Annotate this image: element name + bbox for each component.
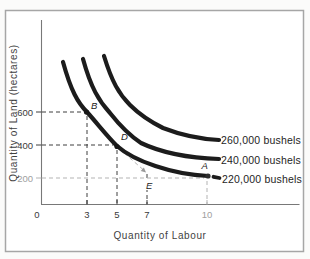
y-tick-400: 400 (17, 140, 33, 151)
curve-220k-end-mark (214, 177, 220, 178)
x-axis-title: Quantity of Labour (113, 230, 206, 241)
curve-label-220k: 220,000 bushels (222, 173, 302, 185)
isoquant-chart-svg: 600 400 200 0 3 5 7 10 Quantity of Land … (0, 0, 310, 259)
point-label-E: E (146, 180, 153, 191)
point-marker-A (205, 173, 210, 178)
x-tick-5: 5 (114, 209, 119, 220)
point-label-A: A (201, 160, 208, 171)
y-tick-200: 200 (17, 173, 33, 184)
y-axis-title: Quantity of Land (hectares) (8, 44, 19, 181)
point-marker-B (84, 109, 89, 114)
y-tick-600: 600 (17, 107, 33, 118)
point-label-B: B (91, 100, 98, 111)
figure-frame (6, 11, 304, 252)
x-tick-0: 0 (34, 209, 39, 220)
x-tick-7: 7 (144, 209, 149, 220)
point-label-D: D (121, 131, 128, 142)
curve-label-240k: 240,000 bushels (221, 154, 301, 166)
curve-label-260k: 260,000 bushels (221, 134, 301, 146)
point-marker-D (114, 144, 119, 149)
x-tick-3: 3 (84, 209, 89, 220)
isoquant-figure: 600 400 200 0 3 5 7 10 Quantity of Land … (0, 0, 310, 259)
x-tick-10: 10 (202, 209, 213, 220)
